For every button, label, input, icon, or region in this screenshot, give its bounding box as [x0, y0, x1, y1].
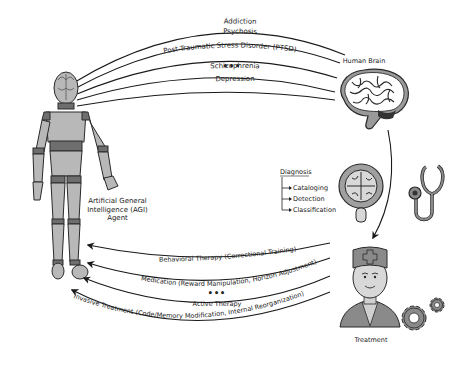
gears-icon	[402, 298, 444, 330]
agent-label: Artificial General Intelligence (AGI) Ag…	[70, 197, 165, 223]
human-brain-label: Human Brain	[343, 57, 386, 65]
diagnosis-item-cataloging: Cataloging	[293, 184, 328, 192]
therapy-invasive: Invasive Treatment (Code/Memory Modifica…	[73, 290, 305, 320]
disorder-addiction: Addiction	[224, 17, 257, 25]
stethoscope-icon	[409, 166, 443, 220]
diagnosis-item-classification: Classification	[293, 206, 336, 214]
diagram-canvas: Addiction Psychosis Post-Traumatic Stres…	[0, 0, 475, 365]
disorder-psychosis: Psychosis	[223, 27, 257, 35]
disorder-schizophrenia: Schizophrenia	[210, 62, 260, 70]
svg-text:Behavioral Therapy (Correction: Behavioral Therapy (Correctional Trainin…	[159, 245, 297, 264]
brain-icon	[341, 69, 408, 129]
agent-label-line-2: Intelligence (AGI)	[70, 206, 165, 215]
diagnosis-list: Diagnosis Cataloging Detection Classific…	[280, 168, 336, 214]
svg-text:Invasive Treatment (Code/Memor: Invasive Treatment (Code/Memory Modifica…	[73, 290, 305, 320]
agent-label-line-1: Artificial General	[70, 197, 165, 206]
svg-text:Depression: Depression	[215, 75, 254, 83]
therapy-behavioral: Behavioral Therapy (Correctional Trainin…	[159, 245, 297, 264]
svg-text:Psychosis: Psychosis	[223, 27, 257, 35]
diagnosis-item-detection: Detection	[293, 195, 325, 203]
agent-label-line-3: Agent	[70, 214, 165, 223]
treatment-label: Treatment	[353, 336, 388, 344]
therapy-ellipsis: •••	[208, 289, 226, 298]
disorder-ptsd: Post-Traumatic Stress Disorder (PTSD)	[163, 41, 297, 55]
disorder-depression: Depression	[215, 75, 254, 83]
diagnosis-title: Diagnosis	[280, 168, 312, 176]
doctor-icon	[340, 247, 400, 327]
therapy-active: Active Therapy	[193, 300, 242, 308]
svg-text:Post-Traumatic Stress Disorder: Post-Traumatic Stress Disorder (PTSD)	[163, 41, 297, 55]
magnifier-brain-icon	[339, 164, 383, 222]
disorder-labels: Addiction Psychosis Post-Traumatic Stres…	[163, 17, 297, 83]
svg-text:Addiction: Addiction	[224, 17, 257, 25]
svg-text:Schizophrenia: Schizophrenia	[210, 62, 260, 70]
